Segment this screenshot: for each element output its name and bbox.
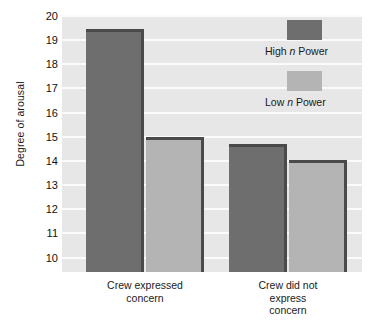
- y-tick-label: 19: [32, 34, 58, 46]
- y-tick-label: 20: [32, 10, 58, 22]
- y-tick-label: 13: [32, 179, 58, 191]
- bar: [146, 137, 204, 272]
- bar-chart: Degree of arousal High n Power Low n Pow…: [0, 0, 374, 323]
- legend-item-high-n-power: High n Power: [265, 20, 365, 57]
- bar: [289, 160, 347, 272]
- legend-swatch-high-n-power: [287, 20, 322, 40]
- gridline: [62, 15, 362, 17]
- legend-swatch-low-n-power: [287, 71, 322, 91]
- x-axis-category-label: Crew expressed concern: [68, 279, 222, 304]
- y-tick-label: 10: [32, 252, 58, 264]
- y-axis-title: Degree of arousal: [14, 54, 26, 194]
- x-axis-category-label: Crew did not express concern: [211, 279, 365, 317]
- y-tick-label: 14: [32, 155, 58, 167]
- y-tick-label: 17: [32, 82, 58, 94]
- chart-legend: High n Power Low n Power: [265, 20, 365, 122]
- legend-label-low-n-power: Low n Power: [265, 96, 365, 108]
- bar: [86, 29, 144, 272]
- legend-label-high-n-power: High n Power: [265, 45, 365, 57]
- y-tick-label: 15: [32, 131, 58, 143]
- y-tick-label: 12: [32, 203, 58, 215]
- legend-item-low-n-power: Low n Power: [265, 71, 365, 108]
- y-tick-label: 11: [32, 227, 58, 239]
- y-tick-label: 16: [32, 107, 58, 119]
- bar: [229, 144, 287, 272]
- y-tick-label: 18: [32, 58, 58, 70]
